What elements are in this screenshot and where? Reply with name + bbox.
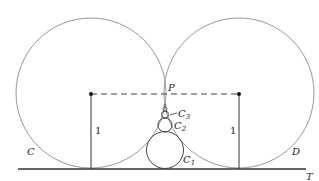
circle-c1 [147, 132, 184, 169]
label-radius-left: 1 [95, 125, 101, 136]
c3-pointer-arrow [170, 113, 177, 115]
label-t: T [306, 171, 314, 181]
center-left-dot [89, 92, 93, 96]
tangent-circles-diagram: P C D T 1 1 C3 C2 C1 [0, 0, 319, 181]
label-radius-right: 1 [230, 125, 236, 136]
label-p: P [167, 82, 175, 93]
label-c1: C1 [183, 154, 195, 167]
label-c2: C2 [174, 120, 187, 133]
label-d: D [291, 146, 300, 157]
center-right-dot [237, 92, 241, 96]
circle-c2 [158, 118, 172, 132]
label-c: C [27, 146, 35, 157]
